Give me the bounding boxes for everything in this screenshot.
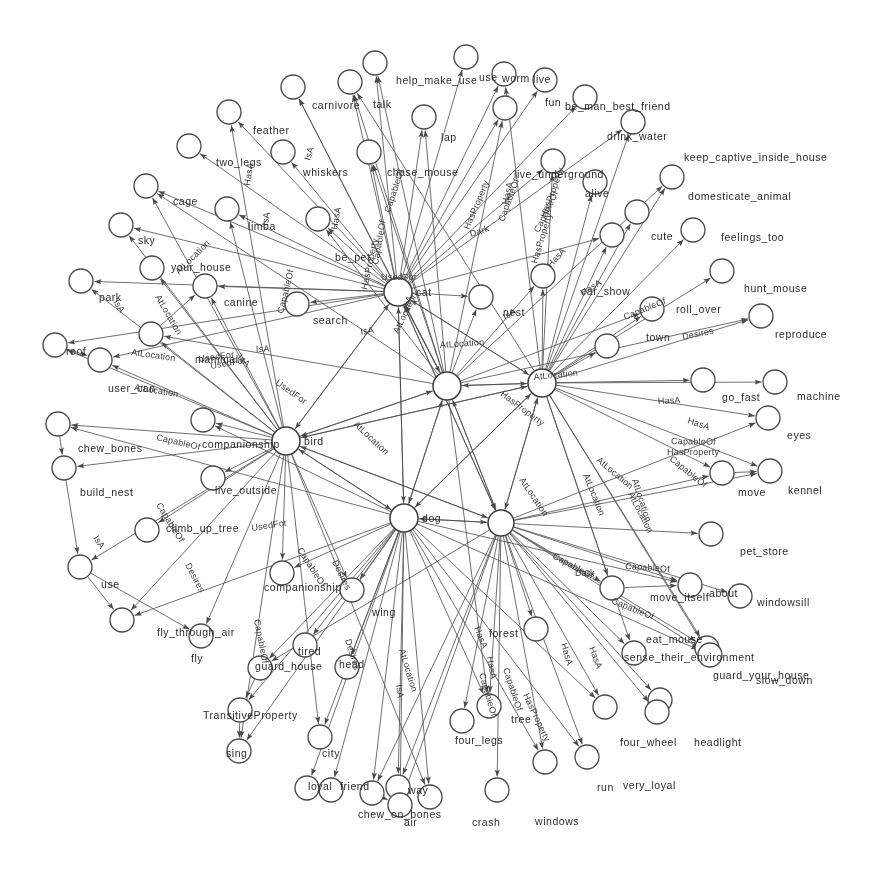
graph-node-label: fly_through_air: [157, 626, 235, 638]
graph-node[interactable]: [412, 105, 436, 129]
graph-node[interactable]: [135, 518, 159, 542]
graph-node-label: limba: [248, 220, 276, 232]
graph-node-label: guard_house: [255, 660, 322, 672]
graph-node[interactable]: [88, 348, 112, 372]
graph-hub-node[interactable]: [433, 372, 461, 400]
graph-hub-node[interactable]: [390, 504, 418, 532]
graph-node[interactable]: [110, 608, 134, 632]
graph-node[interactable]: [308, 725, 332, 749]
graph-node-label: chew_bones: [78, 442, 142, 454]
graph-node[interactable]: [193, 274, 217, 298]
graph-node-label: whiskers: [302, 166, 348, 178]
graph-node-label: live: [533, 73, 551, 85]
graph-node-label: city: [322, 747, 340, 759]
graph-node[interactable]: [600, 576, 624, 600]
graph-node[interactable]: [109, 213, 133, 237]
graph-node-label: TransitiveProperty: [203, 709, 298, 721]
graph-node[interactable]: [469, 285, 493, 309]
graph-node-label: keep_captive_inside_house: [684, 151, 827, 163]
graph-node[interactable]: [191, 408, 215, 432]
graph-node[interactable]: [454, 45, 478, 69]
graph-edge: [398, 308, 403, 504]
graph-node[interactable]: [645, 700, 669, 724]
graph-node[interactable]: [593, 695, 617, 719]
graph-node[interactable]: [691, 368, 715, 392]
graph-node[interactable]: [52, 456, 76, 480]
graph-node[interactable]: [660, 165, 684, 189]
graph-node[interactable]: [215, 197, 239, 221]
graph-node[interactable]: [710, 461, 734, 485]
graph-node[interactable]: [140, 256, 164, 280]
graph-node-label: pet_store: [740, 545, 789, 557]
graph-node[interactable]: [493, 96, 517, 120]
graph-edge-label: IsA: [360, 325, 375, 337]
graph-node-label: talk: [373, 98, 392, 110]
graph-edge: [374, 532, 403, 779]
graph-edge: [373, 165, 442, 372]
graph-node-label: use: [101, 578, 120, 590]
graph-node[interactable]: [749, 304, 773, 328]
graph-node[interactable]: [450, 709, 474, 733]
graph-node-label: search: [313, 314, 348, 326]
graph-node[interactable]: [485, 778, 509, 802]
graph-node[interactable]: [600, 223, 624, 247]
graph-node-label: build_nest: [80, 486, 133, 498]
graph-node[interactable]: [69, 269, 93, 293]
graph-node[interactable]: [281, 75, 305, 99]
graph-node-label: roll_over: [676, 303, 721, 315]
graph-node[interactable]: [134, 174, 158, 198]
graph-node[interactable]: [177, 134, 201, 158]
graph-node-label: dog: [422, 512, 441, 524]
graph-hub-node[interactable]: [488, 510, 514, 536]
graph-node-label: worm: [501, 72, 530, 84]
graph-node[interactable]: [756, 406, 780, 430]
graph-node-label: eat_mouse: [646, 633, 703, 645]
graph-node[interactable]: [217, 100, 241, 124]
graph-node[interactable]: [681, 218, 705, 242]
graph-node[interactable]: [595, 334, 619, 358]
graph-edge: [505, 536, 532, 616]
graph-node-label: fly: [191, 652, 203, 664]
graph-node-label: help_make_use: [396, 74, 477, 86]
graph-edge: [450, 121, 502, 372]
graph-edge-label: HasA: [587, 645, 604, 670]
graph-edge-label: HasProperty: [667, 447, 720, 457]
graph-node[interactable]: [758, 459, 782, 483]
graph-edge: [542, 290, 543, 369]
graph-node-label: fun: [545, 96, 561, 108]
graph-edge-label: Desires: [681, 325, 715, 341]
graph-edge-label: HasA: [658, 395, 681, 406]
graph-node[interactable]: [710, 259, 734, 283]
graph-node[interactable]: [306, 207, 330, 231]
graph-node[interactable]: [68, 555, 92, 579]
graph-node-label: head: [339, 658, 365, 670]
graph-edge-label: CapableOf: [671, 436, 716, 447]
graph-node[interactable]: [575, 745, 599, 769]
graph-edge-label: HasA: [686, 415, 711, 432]
graph-node[interactable]: [271, 140, 295, 164]
graph-node[interactable]: [357, 140, 381, 164]
graph-node[interactable]: [533, 750, 557, 774]
graph-node-label: cat: [416, 286, 432, 298]
graph-node[interactable]: [363, 51, 387, 75]
graph-node[interactable]: [43, 333, 67, 357]
graph-node[interactable]: [524, 617, 548, 641]
graph-node-label: lap: [441, 131, 457, 143]
graph-edge: [405, 120, 498, 280]
graph-node-label: about: [709, 587, 738, 599]
graph-node[interactable]: [46, 412, 70, 436]
graph-node[interactable]: [625, 200, 649, 224]
graph-node-label: canine: [224, 296, 258, 308]
graph-node[interactable]: [338, 70, 362, 94]
graph-node[interactable]: [139, 322, 163, 346]
graph-node-label: carnivore: [312, 99, 360, 111]
graph-node[interactable]: [699, 522, 723, 546]
graph-node-label: move: [738, 486, 766, 498]
graph-node-label: kennel: [788, 484, 822, 496]
graph-edge-label: AtLocation: [439, 337, 484, 350]
graph-node-label: wing: [371, 606, 396, 618]
graph-node[interactable]: [763, 370, 787, 394]
graph-node-label: reproduce: [775, 328, 827, 340]
graph-edge-label: UsedFor: [381, 272, 417, 282]
graph-edge-label: CapableOf: [610, 596, 656, 622]
